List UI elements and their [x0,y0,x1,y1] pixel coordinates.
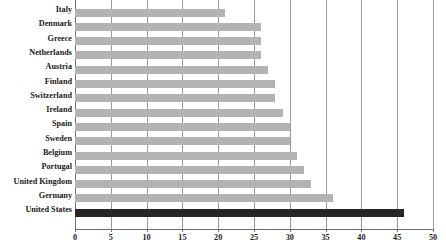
tick-mark-35 [326,229,327,232]
bar-greece [75,37,261,45]
bar-netherlands [75,51,261,59]
bar-united-states [75,209,404,217]
tick-mark-5 [111,229,112,232]
x-tick-label-25: 25 [250,233,258,242]
bar-series [75,0,433,229]
bar-row [75,191,433,205]
bar-row [75,6,433,20]
bar-germany [75,194,333,202]
tick-mark-10 [147,229,148,232]
gridline-50 [433,0,434,229]
category-label-switzerland: Switzerland [0,89,72,103]
bar-sweden [75,137,290,145]
bar-row [75,120,433,134]
category-label-italy: Italy [0,3,72,17]
bar-ireland [75,109,283,117]
tick-mark-0 [75,229,76,232]
category-label-belgium: Belgium [0,146,72,160]
category-label-sweden: Sweden [0,132,72,146]
bar-row [75,77,433,91]
bar-row [75,163,433,177]
x-tick-label-0: 0 [73,233,77,242]
x-tick-label-5: 5 [109,233,113,242]
x-tick-label-45: 45 [393,233,401,242]
category-label-germany: Germany [0,189,72,203]
tick-mark-25 [254,229,255,232]
category-label-spain: Spain [0,117,72,131]
bar-row [75,206,433,220]
category-label-ireland: Ireland [0,103,72,117]
category-label-united-kingdom: United Kingdom [0,175,72,189]
bar-chart: ItalyDenmarkGreeceNetherlandsAustriaFinl… [0,0,446,251]
category-label-portugal: Portugal [0,160,72,174]
bar-row [75,63,433,77]
x-tick-label-30: 30 [286,233,294,242]
x-tick-label-50: 50 [429,233,437,242]
bar-united-kingdom [75,180,311,188]
category-label-united-states: United States [0,203,72,217]
bar-row [75,34,433,48]
plot-area [75,0,433,229]
bar-finland [75,80,275,88]
bar-row [75,134,433,148]
bar-row [75,149,433,163]
bar-portugal [75,166,304,174]
bar-row [75,91,433,105]
bar-italy [75,9,225,17]
bar-austria [75,66,268,74]
x-axis-tick-labels: 05101520253035404550 [75,233,433,249]
tick-mark-30 [290,229,291,232]
bar-row [75,106,433,120]
x-tick-label-10: 10 [143,233,151,242]
tick-mark-45 [397,229,398,232]
tick-mark-50 [433,229,434,232]
tick-mark-20 [218,229,219,232]
category-label-netherlands: Netherlands [0,46,72,60]
x-tick-label-15: 15 [178,233,186,242]
bar-row [75,48,433,62]
bar-row [75,20,433,34]
category-label-greece: Greece [0,32,72,46]
x-tick-label-40: 40 [357,233,365,242]
bar-row [75,177,433,191]
x-tick-label-20: 20 [214,233,222,242]
tick-mark-40 [361,229,362,232]
category-label-denmark: Denmark [0,17,72,31]
bar-spain [75,123,290,131]
bar-denmark [75,23,261,31]
category-label-austria: Austria [0,60,72,74]
bar-belgium [75,152,297,160]
tick-mark-15 [182,229,183,232]
category-axis-labels: ItalyDenmarkGreeceNetherlandsAustriaFinl… [0,0,72,229]
x-tick-label-35: 35 [322,233,330,242]
category-label-finland: Finland [0,75,72,89]
bar-switzerland [75,94,275,102]
